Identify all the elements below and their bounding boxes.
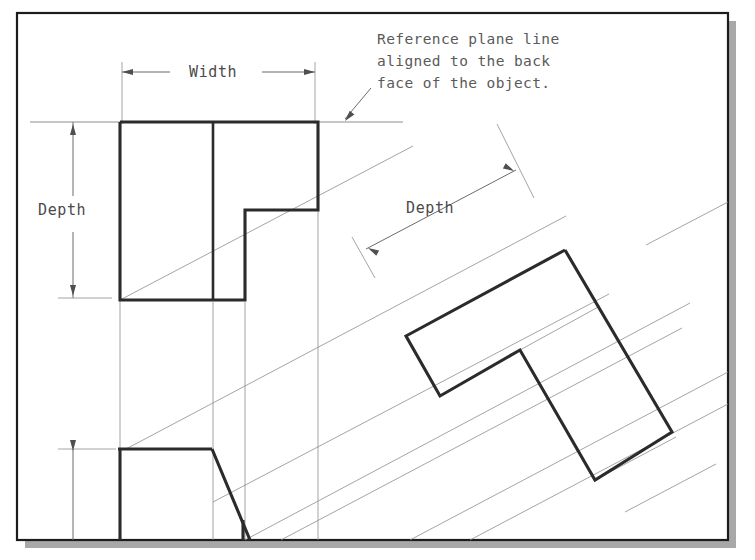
note-line: face of the object. bbox=[377, 75, 550, 91]
depth-dimension-label-front-view: Depth bbox=[38, 201, 86, 219]
depth-dimension-label-oblique-view: Depth bbox=[406, 199, 454, 217]
reference-plane-note: Reference plane linealigned to the backf… bbox=[377, 31, 560, 91]
drawing-canvas: Reference plane linealigned to the backf… bbox=[0, 0, 755, 560]
note-line: aligned to the back bbox=[377, 53, 550, 69]
drawing-border bbox=[17, 13, 728, 540]
width-dimension-label: Width bbox=[189, 63, 237, 81]
note-line: Reference plane line bbox=[377, 31, 560, 47]
technical-drawing: Reference plane linealigned to the backf… bbox=[0, 0, 755, 560]
